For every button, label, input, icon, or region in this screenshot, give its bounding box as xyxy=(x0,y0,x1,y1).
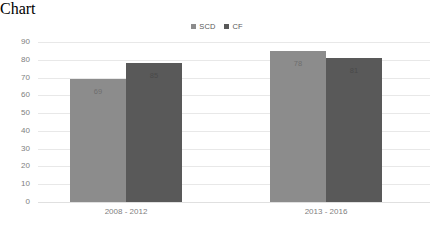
legend-swatch-cf xyxy=(224,24,229,29)
y-tick-label: 60 xyxy=(0,91,30,99)
legend-label-scd: SCD xyxy=(199,23,215,31)
bar-value-label: 81 xyxy=(326,67,382,75)
bar-value-label: 85 xyxy=(126,72,182,80)
bar-value-label: 69 xyxy=(70,88,126,96)
axis-baseline xyxy=(38,202,430,203)
y-tick-label: 30 xyxy=(0,145,30,153)
bar-group-2008-2012: 69 85 xyxy=(70,42,182,202)
legend-label-cf: CF xyxy=(232,23,242,31)
chart-legend: SCD CF xyxy=(0,20,434,33)
bar-cf-2008-2012[interactable]: 85 xyxy=(126,63,182,202)
y-tick-label: 90 xyxy=(0,38,30,46)
y-tick-label: 50 xyxy=(0,109,30,117)
bar-value-label: 78 xyxy=(270,60,326,68)
y-tick-label: 70 xyxy=(0,74,30,82)
legend-item-cf[interactable]: CF xyxy=(224,23,242,31)
bar-scd-2008-2012[interactable]: 69 xyxy=(70,79,126,202)
x-tick-label-2008-2012: 2008 - 2012 xyxy=(105,208,148,216)
legend-swatch-scd xyxy=(191,24,196,29)
y-tick-label: 80 xyxy=(0,56,30,64)
y-tick-label: 0 xyxy=(0,198,30,206)
x-tick-label-2013-2016: 2013 - 2016 xyxy=(305,208,348,216)
y-tick-label: 40 xyxy=(0,127,30,135)
y-tick-label: 10 xyxy=(0,180,30,188)
bar-scd-2013-2016[interactable]: 78 xyxy=(270,51,326,202)
y-tick-label: 20 xyxy=(0,162,30,170)
bar-groups: 69 85 78 81 xyxy=(38,42,430,202)
plot-area: 69 85 78 81 xyxy=(38,42,430,202)
bar-cf-2013-2016[interactable]: 81 xyxy=(326,58,382,202)
bar-chart: SCD CF 90 80 70 60 50 40 30 20 10 0 xyxy=(0,18,434,227)
bar-group-2013-2016: 78 81 xyxy=(270,42,382,202)
legend-item-scd[interactable]: SCD xyxy=(191,23,215,31)
